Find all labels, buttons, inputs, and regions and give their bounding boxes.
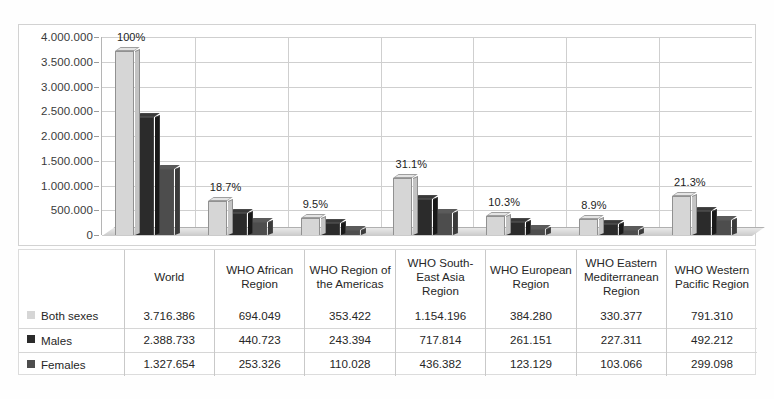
bar-group: 8.9% (566, 37, 659, 235)
bar (301, 218, 320, 235)
legend-swatch-icon (27, 335, 35, 343)
table-cell-value: 261.151 (486, 328, 576, 352)
table-row: Males2.388.733440.723243.394717.814261.1… (19, 328, 757, 352)
y-axis-tick-label: 4.000.000 (41, 31, 93, 43)
table-cell-value: 299.098 (667, 352, 757, 376)
bar-side-face (732, 218, 737, 235)
y-axis-tick-label: 3.000.000 (41, 81, 93, 93)
y-axis-tick-mark (94, 136, 99, 137)
bar (486, 216, 505, 235)
bar (393, 178, 412, 235)
legend-entry: Males (19, 328, 124, 352)
table-column-header: WHO European Region (486, 250, 576, 304)
bar-side-face (321, 215, 326, 235)
bar-side-face (639, 228, 644, 235)
chart-figure: 0500.0001.000.0001.500.0002.000.0002.500… (0, 0, 774, 399)
y-axis-tick-label: 2.500.000 (41, 105, 93, 117)
table-cell-value: 123.129 (486, 352, 576, 376)
table-cell-value: 694.049 (214, 304, 304, 328)
table-cell-value: 353.422 (305, 304, 395, 328)
bar-side-face (599, 217, 604, 235)
bar-side-face (433, 197, 438, 235)
y-axis-tick-label: 1.500.000 (41, 155, 93, 167)
legend-label: Males (41, 333, 72, 346)
bar-side-face (619, 222, 624, 235)
table-row: Females1.327.654253.326110.028436.382123… (19, 352, 757, 376)
bar-group: 100% (102, 37, 195, 235)
legend-label: Females (41, 358, 85, 371)
y-axis-tick-label: 1.000.000 (41, 180, 93, 192)
chart-plot-frame: 0500.0001.000.0001.500.0002.000.0002.500… (18, 24, 756, 246)
data-table: WorldWHO African RegionWHO Region of the… (18, 249, 756, 375)
table-cell-value: 243.394 (305, 328, 395, 352)
bar-percentage-label: 8.9% (581, 199, 606, 211)
table-corner-cell (19, 250, 124, 304)
bar (208, 201, 227, 235)
bar-side-face (453, 211, 458, 235)
table-cell-value: 384.280 (486, 304, 576, 328)
table-cell-value: 1.327.654 (124, 352, 214, 376)
table-column-header: WHO South-East Asia Region (395, 250, 485, 304)
bar-percentage-label: 100% (117, 31, 146, 43)
bar-front-face (301, 218, 320, 235)
table-cell-value: 103.066 (576, 352, 666, 376)
y-axis-tick-mark (94, 161, 99, 162)
bar-side-face (341, 221, 346, 235)
bar-side-face (506, 214, 511, 235)
y-axis-tick-label: 2.000.000 (41, 130, 93, 142)
y-axis-tick-label: 3.500.000 (41, 56, 93, 68)
legend-entry: Both sexes (19, 304, 124, 328)
legend-swatch-icon (27, 360, 35, 368)
table-column-header: WHO Western Pacific Region (667, 250, 757, 304)
y-axis-tick-mark (94, 111, 99, 112)
table-cell-value: 791.310 (667, 304, 757, 328)
bar-side-face (135, 49, 140, 235)
table-column-header: WHO African Region (214, 250, 304, 304)
bar-front-face (672, 196, 691, 235)
bar-side-face (155, 115, 160, 235)
table-header-row: WorldWHO African RegionWHO Region of the… (19, 250, 757, 304)
bar-front-face (115, 51, 134, 235)
bar-side-face (546, 227, 551, 235)
plot-area: 100%18.7%9.5%31.1%10.3%8.9%21.3% (102, 37, 752, 235)
table-cell-value: 717.814 (395, 328, 485, 352)
y-axis-tick-mark (94, 186, 99, 187)
bar-percentage-label: 21.3% (674, 176, 706, 188)
bar-front-face (208, 201, 227, 235)
bar-side-face (268, 220, 273, 235)
plot-inner: 100%18.7%9.5%31.1%10.3%8.9%21.3% (102, 37, 752, 235)
table-cell-value: 1.154.196 (395, 304, 485, 328)
y-axis: 0500.0001.000.0001.500.0002.000.0002.500… (19, 25, 99, 247)
bar-percentage-label: 31.1% (395, 158, 427, 170)
bar-front-face (486, 216, 505, 235)
table-column-header: World (124, 250, 214, 304)
table-row: Both sexes3.716.386694.049353.4221.154.1… (19, 304, 757, 328)
bar-side-face (248, 211, 253, 235)
bar-front-face (579, 219, 598, 235)
y-axis-tick-mark (94, 37, 99, 38)
bar-front-face (393, 178, 412, 235)
bar-percentage-label: 9.5% (303, 198, 328, 210)
table-cell-value: 436.382 (395, 352, 485, 376)
y-axis-tick-mark (94, 62, 99, 63)
table-cell-value: 330.377 (576, 304, 666, 328)
bar-side-face (526, 220, 531, 235)
data-table-element: WorldWHO African RegionWHO Region of the… (19, 250, 757, 376)
bar (672, 196, 691, 235)
y-axis-tick-mark (94, 210, 99, 211)
legend-entry: Females (19, 352, 124, 376)
table-cell-value: 227.311 (576, 328, 666, 352)
bar-group: 31.1% (381, 37, 474, 235)
table-column-header: WHO Eastern Mediterranean Region (576, 250, 666, 304)
table-body: Both sexes3.716.386694.049353.4221.154.1… (19, 304, 757, 376)
bar-group: 9.5% (288, 37, 381, 235)
bar-group: 21.3% (659, 37, 752, 235)
bar (115, 51, 134, 235)
table-cell-value: 440.723 (214, 328, 304, 352)
table-cell-value: 110.028 (305, 352, 395, 376)
bar-side-face (712, 209, 717, 235)
table-head: WorldWHO African RegionWHO Region of the… (19, 250, 757, 304)
table-column-header: WHO Region of the Americas (305, 250, 395, 304)
bar-group: 18.7% (195, 37, 288, 235)
table-cell-value: 492.212 (667, 328, 757, 352)
